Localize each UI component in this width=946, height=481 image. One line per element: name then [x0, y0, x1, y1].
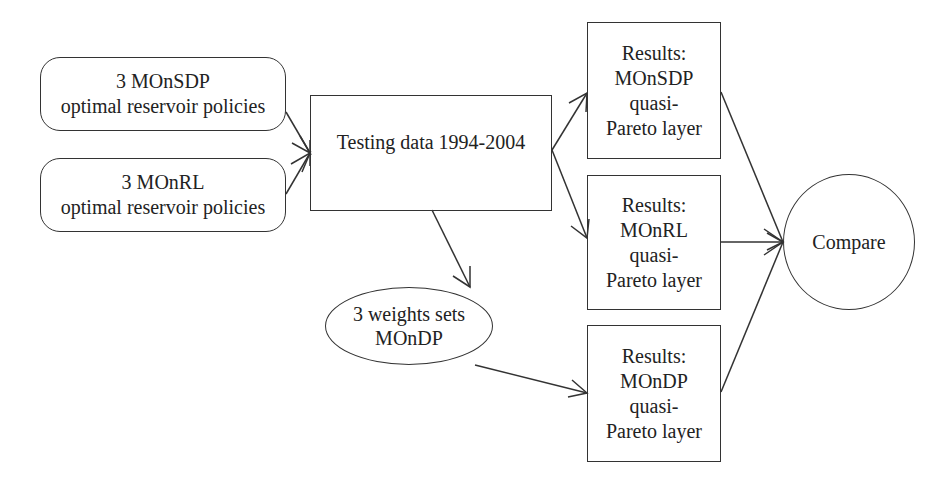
- edge-weights-to-results-mondp: [475, 365, 587, 393]
- node-results-monrl: Results: MOnRL quasi- Pareto layer: [587, 175, 721, 310]
- node-label: Compare: [812, 230, 885, 255]
- edge-results-monsdp-to-compare: [721, 92, 783, 242]
- node-testing-data: Testing data 1994-2004: [310, 95, 552, 211]
- edge-testing-to-results-monsdp: [552, 93, 587, 150]
- node-compare: Compare: [783, 174, 915, 310]
- node-label: quasi-: [630, 91, 679, 116]
- arrowhead-icon: [569, 93, 587, 112]
- node-monsdp-policies: 3 MOnSDP optimal reservoir policies: [40, 57, 286, 131]
- node-label: optimal reservoir policies: [61, 195, 265, 220]
- node-label: MOnRL: [620, 218, 688, 243]
- node-label: 3 MOnRL: [122, 170, 205, 195]
- node-label: Pareto layer: [606, 268, 702, 293]
- node-label: Pareto layer: [606, 116, 702, 141]
- node-label: Results:: [622, 344, 686, 369]
- node-label: 3 MOnSDP: [116, 69, 210, 94]
- node-label: 3 weights sets: [353, 302, 465, 326]
- node-label: quasi-: [630, 394, 679, 419]
- arrowhead-icon: [292, 136, 310, 153]
- node-label: MOnDP: [375, 326, 443, 350]
- node-monrl-policies: 3 MOnRL optimal reservoir policies: [40, 158, 286, 232]
- node-label: Testing data 1994-2004: [337, 130, 526, 155]
- node-results-mondp: Results: MOnDP quasi- Pareto layer: [587, 325, 721, 462]
- edge-results-mondp-to-compare: [721, 242, 783, 392]
- node-label: MOnSDP: [615, 66, 694, 91]
- edge-testing-to-weights: [432, 210, 470, 287]
- node-label: optimal reservoir policies: [61, 94, 265, 119]
- node-label: MOnDP: [620, 369, 688, 394]
- edge-testing-to-results-monrl: [552, 150, 587, 238]
- node-label: Results:: [622, 41, 686, 66]
- node-label: quasi-: [630, 243, 679, 268]
- node-label: Pareto layer: [606, 419, 702, 444]
- node-results-monsdp: Results: MOnSDP quasi- Pareto layer: [587, 22, 721, 159]
- node-label: Results:: [622, 193, 686, 218]
- node-weights-sets: 3 weights sets MOnDP: [325, 287, 493, 365]
